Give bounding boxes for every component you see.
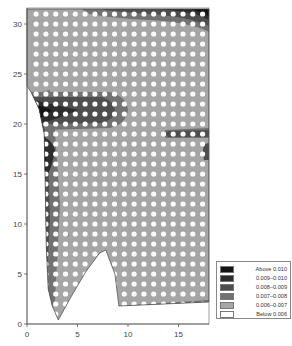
hole-dot — [151, 231, 156, 236]
legend-label: 0.006–0.007 — [239, 302, 287, 308]
hole-dot — [141, 121, 146, 126]
hole-dot — [34, 41, 39, 46]
hole-dot — [171, 11, 176, 16]
hole-dot — [180, 71, 185, 76]
hole-dot — [112, 161, 117, 166]
hole-dot — [161, 121, 166, 126]
hole-dot — [73, 221, 78, 226]
hole-dot — [161, 201, 166, 206]
hole-dot — [73, 51, 78, 56]
hole-dot — [151, 171, 156, 176]
hole-dot — [92, 161, 97, 166]
hole-dot — [200, 191, 205, 196]
hole-dot — [122, 91, 127, 96]
y-tick-label: 10 — [13, 220, 22, 229]
hole-dot — [122, 81, 127, 86]
hole-dot — [132, 211, 137, 216]
hole-dot — [73, 191, 78, 196]
hole-dot — [151, 191, 156, 196]
hole-dot — [190, 111, 195, 116]
hole-dot — [132, 131, 137, 136]
hole-dot — [92, 111, 97, 116]
hole-dot — [180, 11, 185, 16]
hole-dot — [73, 171, 78, 176]
hole-dot — [122, 251, 127, 256]
hole-dot — [102, 241, 107, 246]
hole-dot — [132, 201, 137, 206]
hole-dot — [161, 111, 166, 116]
hole-dot — [73, 81, 78, 86]
hole-dot — [200, 21, 205, 26]
hole-dot — [73, 61, 78, 66]
hole-dot — [141, 261, 146, 266]
hole-dot — [161, 171, 166, 176]
hole-dot — [141, 201, 146, 206]
hole-dot — [43, 61, 48, 66]
hole-dot — [161, 141, 166, 146]
hole-dot — [53, 91, 58, 96]
hole-dot — [151, 61, 156, 66]
hole-dot — [73, 231, 78, 236]
hole-dot — [63, 91, 68, 96]
hole-dot — [161, 221, 166, 226]
hole-dot — [141, 221, 146, 226]
hole-dot — [43, 101, 48, 106]
hole-dot — [190, 241, 195, 246]
hole-dot — [63, 151, 68, 156]
hole-dot — [132, 231, 137, 236]
hole-dot — [83, 151, 88, 156]
hole-dot — [102, 161, 107, 166]
hole-dot — [43, 91, 48, 96]
hole-dot — [112, 261, 117, 266]
hole-dot — [171, 211, 176, 216]
hole-dot — [151, 251, 156, 256]
hole-dot — [132, 61, 137, 66]
hole-dot — [83, 11, 88, 16]
hole-dot — [112, 101, 117, 106]
hole-dot — [122, 141, 127, 146]
hole-dot — [102, 11, 107, 16]
hole-dot — [161, 131, 166, 136]
hole-dot — [132, 121, 137, 126]
hole-dot — [190, 271, 195, 276]
hole-dot — [180, 201, 185, 206]
hole-dot — [171, 171, 176, 176]
hole-dot — [73, 261, 78, 266]
hole-dot — [200, 161, 205, 166]
hole-dot — [122, 121, 127, 126]
hole-dot — [180, 111, 185, 116]
hole-dot — [102, 211, 107, 216]
hole-dot — [73, 181, 78, 186]
hole-dot — [171, 221, 176, 226]
hole-dot — [151, 11, 156, 16]
hole-dot — [63, 281, 68, 286]
hole-dot — [161, 211, 166, 216]
hole-dot — [112, 121, 117, 126]
x-axis-ticks: 051015 — [25, 324, 184, 339]
legend-swatch — [220, 266, 234, 273]
hole-dot — [180, 151, 185, 156]
hole-dot — [112, 191, 117, 196]
hole-dot — [53, 191, 58, 196]
hole-dot — [180, 31, 185, 36]
hole-dot — [161, 291, 166, 296]
hole-dot — [141, 11, 146, 16]
y-axis-ticks: 051015202530 — [13, 20, 27, 329]
hole-dot — [63, 221, 68, 226]
hole-dot — [92, 31, 97, 36]
hole-dot — [53, 101, 58, 106]
hole-dot — [83, 61, 88, 66]
hole-dot — [102, 121, 107, 126]
hole-dot — [141, 281, 146, 286]
hole-dot — [132, 151, 137, 156]
hole-dot — [122, 111, 127, 116]
hole-dot — [34, 31, 39, 36]
hole-dot — [122, 11, 127, 16]
hole-dot — [92, 171, 97, 176]
hole-dot — [190, 211, 195, 216]
hole-dot — [112, 51, 117, 56]
hole-dot — [151, 151, 156, 156]
hole-dot — [122, 101, 127, 106]
hole-dot — [190, 41, 195, 46]
hole-dot — [190, 161, 195, 166]
